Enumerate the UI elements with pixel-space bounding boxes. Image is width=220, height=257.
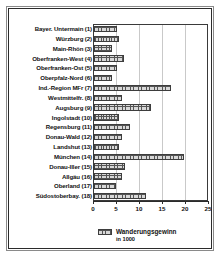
bar [94,144,119,150]
bar-row: Oberpfalz-Nord (6) [0,73,220,83]
legend: Wanderungsgewinn in 1000 [98,228,176,243]
x-tick-label: 0 [91,205,94,212]
bar-row: Oberfranken-Ost (5) [0,63,220,73]
x-tick-label: 25 [205,205,212,212]
bar [94,45,112,51]
bar-row: Würzburg (2) [0,34,220,44]
category-label: Oberpfalz-Nord (6) [6,73,92,83]
bar [94,75,112,81]
category-label: Augsburg (9) [6,103,92,113]
bar [94,114,119,120]
bar-row: Augsburg (9) [0,103,220,113]
category-label: Würzburg (2) [6,34,92,44]
category-label: Oberfranken-Ost (5) [6,63,92,73]
category-label: Main-Rhön (3) [6,44,92,54]
legend-label: Wanderungsgewinn [116,228,176,236]
bar-row: Südostoberbay. (18) [0,191,220,201]
category-label: Donau-Iller (15) [6,162,92,172]
category-label: Regensburg (11) [6,122,92,132]
category-label: Donau-Wald (12) [6,132,92,142]
bar-rows: Bayer. Untermain (1)Würzburg (2)Main-Rhö… [0,24,220,201]
category-label: Oberland (17) [6,181,92,191]
bar [94,183,116,189]
bar-row: Westmittelfr. (8) [0,93,220,103]
x-axis-line [93,201,208,202]
x-tick-label: 5 [114,205,117,212]
bar [94,193,146,199]
category-label: Landshut (13) [6,142,92,152]
bar-row: Oberfranken-West (4) [0,54,220,64]
category-label: Südostoberbay. (18) [6,191,92,201]
bar [94,36,119,42]
bar-row: Ind.-Region MFr (7) [0,83,220,93]
bar [94,163,125,169]
bar [94,134,122,140]
x-tick-label: 15 [159,205,166,212]
bar-row: Allgäu (16) [0,172,220,182]
x-tick [116,201,117,204]
x-tick [185,201,186,204]
category-label: Westmittelfr. (8) [6,93,92,103]
bar [94,26,117,32]
bar-row: München (14) [0,152,220,162]
chart-figure: Bayer. Untermain (1)Würzburg (2)Main-Rhö… [0,0,220,257]
bar [94,85,171,91]
bar [94,154,184,160]
bar [94,124,130,130]
bar-row: Oberland (17) [0,181,220,191]
bar-row: Ingolstadt (10) [0,113,220,123]
x-tick [93,201,94,204]
legend-text-block: Wanderungsgewinn in 1000 [116,228,176,243]
category-label: Oberfranken-West (4) [6,54,92,64]
x-tick [139,201,140,204]
plot-wrapper: Bayer. Untermain (1)Würzburg (2)Main-Rhö… [0,0,220,257]
category-label: Allgäu (16) [6,172,92,182]
bar-row: Main-Rhön (3) [0,44,220,54]
bar [94,65,117,71]
bar-row: Bayer. Untermain (1) [0,24,220,34]
bar [94,55,124,61]
bar-row: Donau-Iller (15) [0,162,220,172]
category-label: Ind.-Region MFr (7) [6,83,92,93]
x-tick [208,201,209,204]
bar-row: Donau-Wald (12) [0,132,220,142]
category-label: Bayer. Untermain (1) [6,24,92,34]
x-tick-label: 20 [182,205,189,212]
category-label: Ingolstadt (10) [6,113,92,123]
x-tick [162,201,163,204]
category-label: München (14) [6,152,92,162]
bar-row: Landshut (13) [0,142,220,152]
legend-sublabel: in 1000 [116,236,176,243]
bar [94,104,151,110]
x-tick-label: 10 [136,205,143,212]
legend-swatch-icon [98,229,112,235]
bar-row: Regensburg (11) [0,122,220,132]
bar [94,95,122,101]
bar [94,173,122,179]
